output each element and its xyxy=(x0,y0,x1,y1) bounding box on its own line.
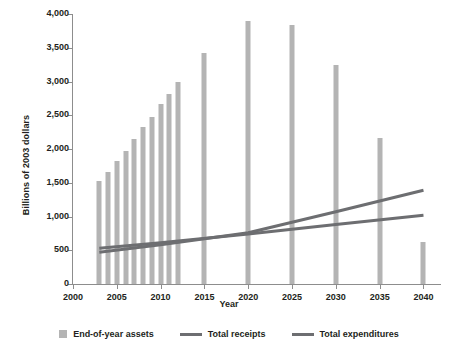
legend-item-total-expenditures: Total expenditures xyxy=(292,329,399,339)
legend-label: Total receipts xyxy=(208,329,266,339)
y-tick-label: 1,000 xyxy=(46,211,69,221)
legend-label: Total expenditures xyxy=(320,329,399,339)
x-tick-mark xyxy=(117,284,118,289)
line-total-receipts xyxy=(99,215,423,248)
chart-legend: End-of-year assets Total receipts Total … xyxy=(0,329,458,339)
y-tick-label: 1,500 xyxy=(46,177,69,187)
y-tick-label: 0 xyxy=(64,278,69,288)
bar-swatch-icon xyxy=(59,330,67,338)
y-tick-label: 2,500 xyxy=(46,109,69,119)
line-group xyxy=(73,14,441,284)
x-tick-mark xyxy=(292,284,293,289)
y-tick-label: 3,500 xyxy=(46,42,69,52)
x-tick-mark xyxy=(73,284,74,289)
y-tick-label: 4,000 xyxy=(46,8,69,18)
y-tick-label: 3,000 xyxy=(46,76,69,86)
y-tick-label: 500 xyxy=(54,244,69,254)
chart-figure: Billions of 2003 dollars 05001,0001,5002… xyxy=(0,0,458,359)
x-tick-mark xyxy=(380,284,381,289)
legend-label: End-of-year assets xyxy=(73,329,154,339)
x-tick-mark xyxy=(204,284,205,289)
legend-item-total-receipts: Total receipts xyxy=(180,329,266,339)
x-axis-line xyxy=(72,284,441,285)
line-swatch-icon xyxy=(180,333,202,336)
x-tick-mark xyxy=(336,284,337,289)
legend-item-end-of-year-assets: End-of-year assets xyxy=(59,329,154,339)
x-tick-mark xyxy=(423,284,424,289)
x-tick-mark xyxy=(161,284,162,289)
x-tick-mark xyxy=(248,284,249,289)
plot-area: 05001,0001,5002,0002,5003,0003,5004,000 … xyxy=(73,14,441,284)
x-axis-title: Year xyxy=(0,299,458,309)
line-swatch-icon xyxy=(292,333,314,336)
y-axis-title: Billions of 2003 dollars xyxy=(21,55,31,275)
y-tick-label: 2,000 xyxy=(46,143,69,153)
